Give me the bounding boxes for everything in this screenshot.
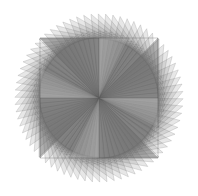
base-square-blades	[40, 38, 158, 158]
pinwheel-spiral-figure	[0, 0, 198, 196]
